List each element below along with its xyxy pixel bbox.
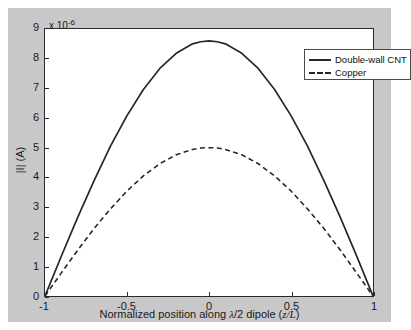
y-tick-mark [45, 207, 49, 208]
y-tick-label: 8 [13, 52, 39, 63]
x-tick-mark [374, 292, 375, 296]
y-tick-mark [45, 177, 49, 178]
y-tick-label: 7 [13, 82, 39, 93]
y-tick-mark [45, 88, 49, 89]
y-axis-exponent-power: -6 [68, 18, 75, 27]
y-tick-mark [45, 297, 49, 298]
y-tick-mark [45, 148, 49, 149]
x-tick-mark [292, 292, 293, 296]
legend: Double-wall CNT Copper [304, 49, 411, 80]
y-tick-mark [45, 237, 49, 238]
x-tick-mark [44, 292, 45, 296]
legend-item-double-wall-cnt[interactable]: Double-wall CNT [305, 53, 410, 66]
y-tick-mark [45, 267, 49, 268]
legend-label: Double-wall CNT [335, 54, 407, 65]
legend-swatch-dashed-icon [308, 67, 334, 79]
y-tick-mark [45, 28, 49, 29]
x-tick-mark [127, 292, 128, 296]
x-tick-mark [209, 292, 210, 296]
legend-label: Copper [335, 67, 366, 78]
plot-area: Double-wall CNT Copper [44, 28, 374, 297]
y-tick-label: 1 [13, 261, 39, 272]
series-line-copper [45, 148, 373, 296]
figure-background: x 10-6 Double-wall CNT Copper 0123456789… [8, 8, 391, 322]
y-axis-label: |I| (A) [14, 120, 26, 200]
legend-item-copper[interactable]: Copper [305, 66, 410, 79]
y-tick-label: 2 [13, 231, 39, 242]
x-axis-label: Normalized position along λ/2 dipole (z/… [8, 308, 391, 320]
y-tick-label: 9 [13, 22, 39, 33]
y-tick-label: 3 [13, 201, 39, 212]
legend-swatch-solid-icon [308, 54, 334, 66]
y-tick-mark [45, 58, 49, 59]
y-tick-mark [45, 118, 49, 119]
